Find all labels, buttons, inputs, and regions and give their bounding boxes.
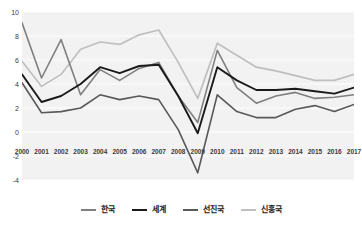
legend-line-icon bbox=[183, 209, 198, 211]
x-axis-tick-label: 2008 bbox=[171, 146, 185, 158]
x-axis-tick-label: 2012 bbox=[249, 146, 263, 158]
x-axis-tick-label: 2015 bbox=[308, 146, 322, 158]
x-axis-tick-label: 2005 bbox=[112, 146, 126, 158]
x-axis-tick-label: 2010 bbox=[210, 146, 224, 158]
y-axis-tick-label: 10 bbox=[11, 9, 19, 16]
legend-item[interactable]: 세계 bbox=[132, 205, 166, 215]
x-axis-tick-label: 2016 bbox=[327, 146, 341, 158]
legend-label: 세계 bbox=[152, 205, 166, 215]
legend-label: 선진국 bbox=[203, 205, 224, 215]
y-axis-tick-label: 2 bbox=[15, 105, 19, 112]
x-axis: 2000200120022003200420052006200720082009… bbox=[22, 146, 354, 158]
x-axis-tick-label: 2014 bbox=[288, 146, 302, 158]
x-axis-tick-label: 2003 bbox=[73, 146, 87, 158]
series-line bbox=[22, 30, 354, 98]
x-axis-tick-label: 2007 bbox=[151, 146, 165, 158]
series-line bbox=[22, 83, 354, 173]
x-axis-tick-label: 2000 bbox=[15, 146, 29, 158]
x-axis-tick-label: 2013 bbox=[269, 146, 283, 158]
x-axis-tick-label: 2006 bbox=[132, 146, 146, 158]
x-axis-tick-label: 2001 bbox=[34, 146, 48, 158]
line-chart: 1086420-2-4 2000200120022003200420052006… bbox=[0, 0, 362, 238]
x-axis-tick-label: 2002 bbox=[54, 146, 68, 158]
x-axis-tick-label: 2004 bbox=[93, 146, 107, 158]
legend-line-icon bbox=[132, 209, 147, 211]
series-line bbox=[22, 65, 354, 133]
y-axis-tick-label: -4 bbox=[13, 177, 19, 184]
legend-line-icon bbox=[241, 209, 256, 211]
legend-item[interactable]: 선진국 bbox=[183, 205, 224, 215]
legend-label: 한국 bbox=[101, 205, 115, 215]
y-axis-tick-label: 4 bbox=[15, 81, 19, 88]
y-axis-tick-label: 0 bbox=[15, 129, 19, 136]
legend-item[interactable]: 신흥국 bbox=[241, 205, 282, 215]
legend-label: 신흥국 bbox=[261, 205, 282, 215]
x-axis-tick-label: 2011 bbox=[230, 146, 244, 158]
y-axis-tick-label: 6 bbox=[15, 57, 19, 64]
x-axis-tick-label: 2017 bbox=[347, 146, 361, 158]
legend-line-icon bbox=[81, 209, 96, 211]
y-axis-tick-label: 8 bbox=[15, 33, 19, 40]
legend-item[interactable]: 한국 bbox=[81, 205, 115, 215]
x-axis-tick-label: 2009 bbox=[191, 146, 205, 158]
chart-legend: 한국세계선진국신흥국 bbox=[0, 200, 362, 220]
